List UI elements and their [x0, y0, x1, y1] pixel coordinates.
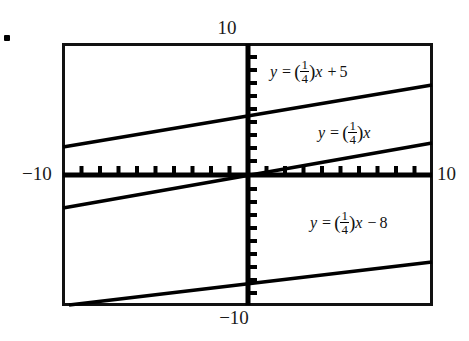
equation-label-line-1: y = ( 1 4 ) x + 5 — [270, 58, 347, 86]
equation-variable: x — [355, 215, 364, 231]
fraction-numerator: 1 — [348, 119, 357, 132]
fraction-numerator: 1 — [340, 209, 349, 222]
equation-fraction: 1 4 — [348, 119, 357, 147]
equation-equals: = — [327, 125, 342, 141]
equation-lhs: y — [270, 64, 279, 80]
equation-equals: = — [319, 215, 334, 231]
equation-label-line-3: y = ( 1 4 ) x − 8 — [310, 209, 387, 237]
equation-fraction: 1 4 — [300, 58, 309, 86]
fraction-denominator: 4 — [348, 132, 357, 146]
equation-lhs: y — [310, 215, 319, 231]
equation-lhs: y — [318, 125, 327, 141]
equation-label-line-2: y = ( 1 4 ) x — [318, 119, 372, 147]
fraction-numerator: 1 — [300, 58, 309, 71]
fraction-denominator: 4 — [300, 71, 309, 85]
axis-label-left: −10 — [22, 164, 52, 183]
equation-fraction: 1 4 — [340, 209, 349, 237]
equation-constant: 5 — [339, 64, 347, 80]
equation-constant: 8 — [379, 215, 387, 231]
axis-label-right: 10 — [437, 164, 456, 183]
equation-operator: − — [364, 215, 379, 231]
fraction-denominator: 4 — [340, 222, 349, 236]
axis-label-bottom: −10 — [219, 308, 249, 327]
equation-variable: x — [315, 64, 324, 80]
equation-equals: = — [279, 64, 294, 80]
graph-figure — [0, 0, 469, 341]
equation-operator: + — [324, 64, 339, 80]
axis-label-top: 10 — [218, 18, 237, 37]
equation-variable: x — [363, 125, 372, 141]
